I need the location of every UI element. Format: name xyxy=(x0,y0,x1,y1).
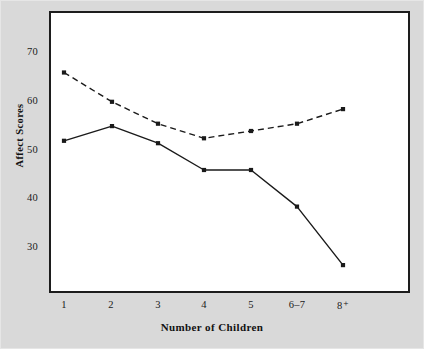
xtick-label-1: 1 xyxy=(47,299,81,310)
xtick-label-4: 4 xyxy=(187,299,221,310)
xtick-label-2: 2 xyxy=(94,299,128,310)
x-axis-title: Number of Children xyxy=(0,321,424,333)
y-axis-title: Affect Scores xyxy=(14,91,25,181)
xtick-label-8-plus: 8⁺ xyxy=(326,299,360,311)
xtick-label-6-7: 6–7 xyxy=(280,299,314,310)
data-point-dashed-series-4 xyxy=(202,136,206,140)
data-point-dashed-series-3 xyxy=(156,122,160,126)
data-point-solid-series-4 xyxy=(202,168,206,172)
data-point-dashed-series-1 xyxy=(62,70,66,74)
data-point-solid-series-1 xyxy=(62,139,66,143)
data-point-dashed-series-6–7 xyxy=(295,122,299,126)
data-point-solid-series-2 xyxy=(110,124,114,128)
ytick-label-70: 70 xyxy=(12,46,38,57)
data-point-solid-series-6–7 xyxy=(295,205,299,209)
data-point-solid-series-8⁺ xyxy=(341,263,345,267)
chart-canvas xyxy=(0,0,424,349)
figure-container: 70 60 50 40 30 1 2 3 4 5 6–7 8⁺ Affect S… xyxy=(0,0,424,349)
data-point-solid-series-3 xyxy=(156,141,160,145)
data-point-dashed-series-8⁺ xyxy=(341,107,345,111)
ytick-label-30: 30 xyxy=(12,241,38,252)
xtick-label-5: 5 xyxy=(234,299,268,310)
series-line-solid-series xyxy=(64,126,343,265)
xtick-label-3: 3 xyxy=(141,299,175,310)
data-point-dashed-series-5 xyxy=(249,129,253,133)
data-point-solid-series-5 xyxy=(249,168,253,172)
ytick-label-40: 40 xyxy=(12,192,38,203)
data-point-dashed-series-2 xyxy=(110,100,114,104)
